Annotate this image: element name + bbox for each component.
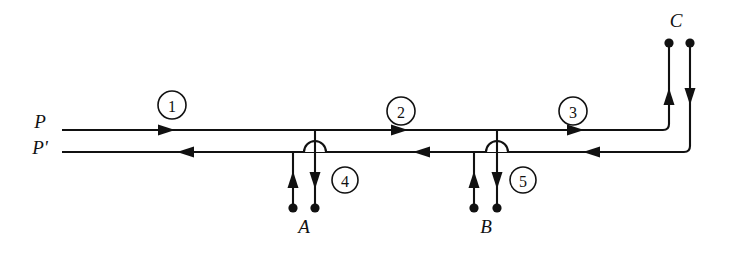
- port-label-p: P: [33, 111, 46, 132]
- segment-marker-2: 2: [387, 97, 415, 125]
- flow-arrow-b-left-up: [469, 171, 480, 188]
- segment-marker-4: 4: [332, 167, 358, 193]
- node-label-b: B: [480, 216, 492, 237]
- flow-arrow-c-left-up: [664, 88, 675, 105]
- flow-arrow-seg3-lower: [583, 147, 600, 158]
- segment-marker-4-label: 4: [341, 173, 349, 190]
- node-label-a: A: [296, 216, 310, 237]
- segment-marker-5: 5: [510, 167, 536, 193]
- flow-arrow-seg2-upper: [391, 125, 408, 136]
- flow-arrow-seg3-upper: [567, 125, 584, 136]
- flow-arrow-seg2-lower: [413, 147, 430, 158]
- segment-marker-5-label: 5: [519, 173, 527, 190]
- segment-marker-3: 3: [559, 97, 587, 125]
- flow-arrow-a-left-up: [288, 171, 299, 188]
- terminal-dot-c-left: [664, 38, 673, 47]
- segment-marker-3-label: 3: [569, 104, 577, 121]
- flow-arrow-b-right-down: [492, 172, 503, 189]
- diagram-canvas: 1 2 3 4 5 P P' C A B: [0, 0, 732, 255]
- segment-marker-1: 1: [158, 91, 186, 119]
- flow-arrow-seg1-upper: [158, 125, 175, 136]
- node-label-c: C: [670, 10, 683, 31]
- flow-arrow-c-right-down: [685, 88, 696, 105]
- lower-conductor-wire: [62, 45, 690, 152]
- transmission-line-diagram: 1 2 3 4 5 P P' C A B: [0, 0, 732, 255]
- segment-marker-2-label: 2: [397, 104, 405, 121]
- terminal-dot-b-right: [492, 203, 501, 212]
- segment-marker-1-label: 1: [168, 98, 176, 115]
- flow-arrow-a-right-down: [310, 172, 321, 189]
- port-label-p-prime: P': [31, 137, 49, 158]
- upper-conductor-wire: [62, 45, 669, 130]
- terminal-dot-b-left: [469, 203, 478, 212]
- flow-arrow-seg1-lower: [177, 147, 194, 158]
- terminal-dot-a-right: [310, 203, 319, 212]
- terminal-dot-a-left: [288, 203, 297, 212]
- terminal-dot-c-right: [685, 38, 694, 47]
